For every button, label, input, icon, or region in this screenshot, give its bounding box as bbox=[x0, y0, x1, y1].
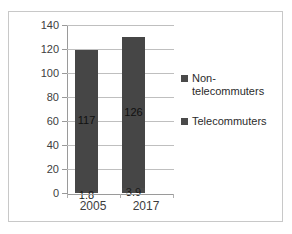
legend-item-telecommuters[interactable]: Telecommuters bbox=[181, 115, 277, 128]
y-axis-tick-label: 20 bbox=[13, 164, 59, 175]
bar-value-label: 3.9 bbox=[122, 187, 145, 198]
legend-swatch-icon bbox=[181, 118, 188, 125]
bar-segment-non-telecommuters-2005[interactable]: 117 bbox=[75, 50, 98, 190]
legend-item-label: Telecommuters bbox=[192, 115, 267, 128]
y-axis-tick-label: 140 bbox=[13, 20, 59, 31]
y-axis-tick-label: 100 bbox=[13, 68, 59, 79]
legend-item-label: Non-telecommuters bbox=[192, 72, 277, 98]
legend-item-non-telecommuters[interactable]: Non-telecommuters bbox=[181, 72, 277, 98]
bar-value-label: 117 bbox=[75, 115, 98, 126]
gridline bbox=[67, 25, 174, 26]
chart-container: 140 120 100 80 60 40 20 0 117 1.8 bbox=[8, 11, 283, 222]
y-axis-labels: 140 120 100 80 60 40 20 0 bbox=[9, 12, 59, 221]
plot-area: 117 1.8 126 3.9 bbox=[67, 25, 174, 193]
x-axis-tick bbox=[120, 194, 121, 198]
bar-group-2017[interactable]: 126 3.9 bbox=[122, 37, 145, 193]
x-axis-tick bbox=[67, 194, 68, 198]
bar-segment-telecommuters-2005[interactable]: 1.8 bbox=[75, 191, 98, 193]
y-axis-tick-label: 0 bbox=[13, 188, 59, 199]
y-axis-tick-label: 80 bbox=[13, 92, 59, 103]
bar-value-label: 126 bbox=[122, 107, 145, 118]
x-axis-tick bbox=[173, 194, 174, 198]
bar-segment-non-telecommuters-2017[interactable]: 126 bbox=[122, 37, 145, 188]
chart-legend: Non-telecommuters Telecommuters bbox=[181, 72, 277, 145]
y-axis-tick-label: 60 bbox=[13, 116, 59, 127]
bar-group-2005[interactable]: 117 1.8 bbox=[75, 50, 98, 193]
bar-segment-telecommuters-2017[interactable]: 3.9 bbox=[122, 188, 145, 193]
y-axis-tick-label: 120 bbox=[13, 44, 59, 55]
x-axis-category-label: 2017 bbox=[119, 200, 173, 213]
x-axis-category-label: 2005 bbox=[66, 200, 120, 213]
y-axis-tick-label: 40 bbox=[13, 140, 59, 151]
legend-swatch-icon bbox=[181, 75, 188, 82]
